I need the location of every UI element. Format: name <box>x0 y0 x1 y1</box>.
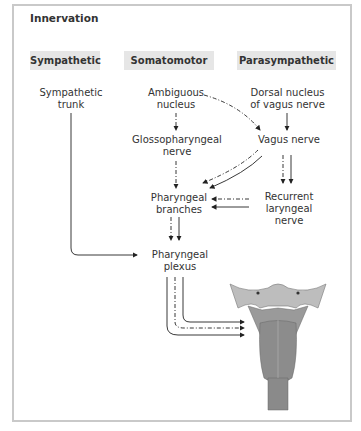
pharynx-illustration <box>228 278 328 418</box>
arrow-ambiguous-to-vagus <box>204 95 260 130</box>
arrow-vagus-to-branches-solid <box>210 156 262 188</box>
arrow-sympathetic-to-plexus <box>71 113 137 255</box>
